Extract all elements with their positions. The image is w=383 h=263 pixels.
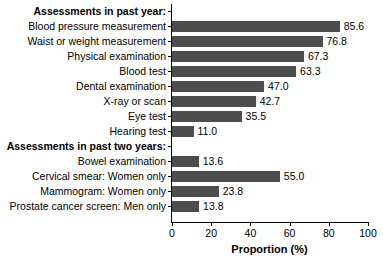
bar-row: Eye test35.5	[172, 109, 368, 124]
bar-row: Dental examination47.0	[172, 79, 368, 94]
x-axis-tick-label: 60	[270, 227, 310, 239]
bar-value-label: 11.0	[194, 124, 218, 139]
bar	[172, 201, 199, 212]
bar-row: Hearing test11.0	[172, 124, 368, 139]
bar-row: Physical examination67.3	[172, 49, 368, 64]
bar-category-label: Waist or weight measurement	[28, 34, 173, 49]
x-axis-tick-label: 0	[152, 227, 192, 239]
group-header-label: Assessments in past year:	[34, 4, 172, 19]
bar-value-label: 67.3	[304, 49, 328, 64]
bar-row: Waist or weight measurement76.8	[172, 34, 368, 49]
bar-value-label: 55.0	[280, 169, 304, 184]
bar-value-label: 13.8	[199, 199, 223, 214]
bar-row: Blood test63.3	[172, 64, 368, 79]
bar-value-label: 23.8	[219, 184, 243, 199]
plot-area: Assessments in past year:Blood pressure …	[172, 4, 368, 222]
bar-category-label: Prostate cancer screen: Men only	[10, 199, 172, 214]
x-axis-tick	[250, 222, 251, 226]
x-axis-tick	[290, 222, 291, 226]
bar	[172, 156, 199, 167]
bar-value-label: 76.8	[323, 34, 347, 49]
bar	[172, 81, 264, 92]
bar-value-label: 42.7	[256, 94, 280, 109]
bar-category-label: Blood pressure measurement	[28, 19, 172, 34]
bar-row: X-ray or scan42.7	[172, 94, 368, 109]
bar	[172, 36, 323, 47]
bar	[172, 126, 194, 137]
group-header-label: Assessments in past two years:	[7, 139, 172, 154]
bar	[172, 51, 304, 62]
horizontal-bar-chart: Assessments in past year:Blood pressure …	[0, 0, 383, 263]
x-axis-tick-label: 20	[191, 227, 231, 239]
bar-value-label: 85.6	[340, 19, 364, 34]
bar	[172, 186, 219, 197]
bar-category-label: Blood test	[119, 64, 172, 79]
bar-row: Mammogram: Women only23.8	[172, 184, 368, 199]
bar	[172, 96, 256, 107]
category-header-row: Assessments in past year:	[172, 4, 368, 19]
x-axis-tick-label: 100	[348, 227, 383, 239]
bar-category-label: Eye test	[128, 109, 172, 124]
bar-value-label: 35.5	[242, 109, 266, 124]
x-axis-tick	[368, 222, 369, 226]
x-axis-ticks: 020406080100	[172, 222, 368, 242]
bar	[172, 66, 296, 77]
x-axis-tick-label: 80	[309, 227, 349, 239]
category-header-row: Assessments in past two years:	[172, 139, 368, 154]
bar-category-label: Dental examination	[76, 79, 172, 94]
bar-category-label: Mammogram: Women only	[40, 184, 172, 199]
bar-value-label: 47.0	[264, 79, 288, 94]
bar-category-label: Physical examination	[67, 49, 172, 64]
bar-row: Prostate cancer screen: Men only13.8	[172, 199, 368, 214]
x-axis-tick	[329, 222, 330, 226]
bar-value-label: 63.3	[296, 64, 320, 79]
bar	[172, 21, 340, 32]
x-axis-tick	[211, 222, 212, 226]
bar-category-label: Cervical smear: Women only	[32, 169, 172, 184]
x-axis-tick	[172, 222, 173, 226]
bar-category-label: Bowel examination	[78, 154, 172, 169]
x-axis-tick-label: 40	[230, 227, 270, 239]
x-axis-title: Proportion (%)	[171, 243, 368, 255]
bar-category-label: Hearing test	[109, 124, 172, 139]
bar	[172, 171, 280, 182]
bar-row: Cervical smear: Women only55.0	[172, 169, 368, 184]
bar-value-label: 13.6	[199, 154, 223, 169]
bar-row: Bowel examination13.6	[172, 154, 368, 169]
bar-row: Blood pressure measurement85.6	[172, 19, 368, 34]
bar	[172, 111, 242, 122]
bar-category-label: X-ray or scan	[104, 94, 172, 109]
